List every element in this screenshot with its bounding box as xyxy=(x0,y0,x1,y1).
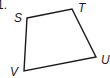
vertex-label-u: U xyxy=(101,53,110,67)
vertex-label-t: T xyxy=(78,1,87,15)
vertex-label-s: S xyxy=(14,11,22,25)
quadrilateral-diagram: 1. S T U V xyxy=(0,0,110,78)
vertex-label-v: V xyxy=(10,65,19,78)
problem-number: 1. xyxy=(0,0,7,12)
quadrilateral-stuv xyxy=(24,9,96,71)
